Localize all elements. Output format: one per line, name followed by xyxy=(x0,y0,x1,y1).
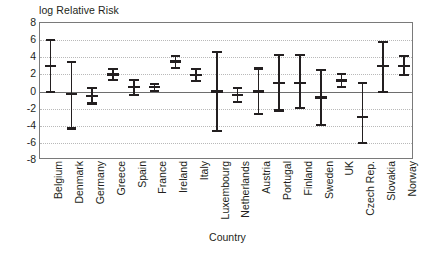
x-tick-label: Slovakia xyxy=(386,161,397,201)
chart-title: log Relative Risk xyxy=(39,4,119,16)
error-bar-upper-cap xyxy=(274,54,284,56)
error-bar-estimate-marker xyxy=(45,65,57,67)
error-bar-upper-cap xyxy=(212,51,222,53)
error-bar-upper-cap xyxy=(337,73,347,75)
error-bar-lower-cap xyxy=(191,80,201,82)
error-bar-upper-cap xyxy=(378,41,388,43)
error-bar-upper-cap xyxy=(108,68,118,70)
error-bar-lower-cap xyxy=(129,94,139,96)
y-tick-label: -8 xyxy=(6,154,36,165)
error-bar-lower-cap xyxy=(316,124,326,126)
error-bar-estimate-marker xyxy=(253,90,265,92)
error-bar-estimate-marker xyxy=(357,116,369,118)
plot-area xyxy=(39,22,413,159)
x-tick-label: Portugal xyxy=(282,161,293,200)
x-tick-label: UK xyxy=(344,161,355,176)
error-bar-upper-cap xyxy=(295,54,305,56)
error-bar-line xyxy=(362,83,364,143)
x-tick-label: Ireland xyxy=(178,161,189,193)
error-bar-lower-cap xyxy=(233,101,243,103)
x-tick-label: Italy xyxy=(199,161,210,180)
y-tick-label: -4 xyxy=(6,120,36,131)
x-tick-label: Finland xyxy=(303,161,314,195)
error-bar-estimate-marker xyxy=(273,82,285,84)
error-bar-upper-cap xyxy=(67,61,77,63)
y-tick-label: 4 xyxy=(6,51,36,62)
error-bar-estimate-marker xyxy=(190,74,202,76)
error-bar-lower-cap xyxy=(212,130,222,132)
error-bar-lower-cap xyxy=(399,74,409,76)
error-bar-upper-cap xyxy=(129,79,139,81)
error-bar-lower-cap xyxy=(171,67,181,69)
error-bar-estimate-marker xyxy=(128,86,140,88)
error-bar-estimate-marker xyxy=(336,79,348,81)
y-tick-label: 0 xyxy=(6,85,36,96)
x-axis-title-text: Country xyxy=(185,231,246,243)
error-bar-upper-cap xyxy=(254,67,264,69)
x-tick-label: Netherlands xyxy=(240,161,251,218)
error-bar-upper-cap xyxy=(87,87,97,89)
error-bar-upper-cap xyxy=(150,83,160,85)
error-bar-lower-cap xyxy=(295,107,305,109)
error-bar-upper-cap xyxy=(233,87,243,89)
y-tick-label: -2 xyxy=(6,102,36,113)
y-tick-label: 8 xyxy=(6,17,36,28)
error-bar-lower-cap xyxy=(87,102,97,104)
error-bar-lower-cap xyxy=(378,91,388,93)
error-bar-upper-cap xyxy=(171,55,181,57)
error-bar-lower-cap xyxy=(254,113,264,115)
x-tick-label: Austria xyxy=(261,161,272,194)
error-bar-lower-cap xyxy=(46,91,56,93)
error-bar-estimate-marker xyxy=(232,94,244,96)
error-bar-estimate-marker xyxy=(315,96,327,98)
error-bar-estimate-marker xyxy=(149,86,161,88)
x-tick-label: Germany xyxy=(95,161,106,204)
log-relative-risk-chart: log Relative Risk 86420-2-4-6-8 BelgiumD… xyxy=(0,0,431,258)
y-tick-label: 6 xyxy=(6,34,36,45)
error-bar-lower-cap xyxy=(274,109,284,111)
error-bar-estimate-marker xyxy=(86,95,98,97)
x-axis-tick-labels: BelgiumDenmarkGermanyGreeceSpainFranceIr… xyxy=(39,161,413,227)
y-axis-tick-labels: 86420-2-4-6-8 xyxy=(2,22,36,159)
x-tick-label: Belgium xyxy=(53,161,64,199)
error-bar-estimate-marker xyxy=(66,93,78,95)
x-axis-title: Country xyxy=(0,231,431,243)
y-tick-label: 2 xyxy=(6,68,36,79)
error-bar-upper-cap xyxy=(316,69,326,71)
error-bar-lower-cap xyxy=(358,142,368,144)
x-tick-label: Sweden xyxy=(324,161,335,199)
y-tick-label: -6 xyxy=(6,137,36,148)
x-tick-label: France xyxy=(157,161,168,194)
x-tick-label: Norway xyxy=(407,161,418,197)
error-bar-estimate-marker xyxy=(294,82,306,84)
error-bar-lower-cap xyxy=(337,86,347,88)
error-bar-upper-cap xyxy=(358,82,368,84)
error-bar-estimate-marker xyxy=(170,60,182,62)
error-bar-lower-cap xyxy=(108,79,118,81)
error-bar-upper-cap xyxy=(46,39,56,41)
x-tick-label: Denmark xyxy=(74,161,85,204)
x-tick-label: Czech Rep. xyxy=(365,161,376,216)
x-tick-label: Greece xyxy=(116,161,127,195)
error-bar-estimate-marker xyxy=(398,65,410,67)
error-bar-lower-cap xyxy=(67,127,77,129)
error-bar-upper-cap xyxy=(399,55,409,57)
error-bar-upper-cap xyxy=(191,68,201,70)
error-bar-lower-cap xyxy=(150,90,160,92)
error-bars-layer xyxy=(40,23,412,158)
x-tick-label: Luxembourg xyxy=(220,161,231,219)
x-tick-label: Spain xyxy=(137,161,148,188)
error-bar-estimate-marker xyxy=(377,65,389,67)
error-bar-estimate-marker xyxy=(211,90,223,92)
error-bar-estimate-marker xyxy=(107,73,119,75)
